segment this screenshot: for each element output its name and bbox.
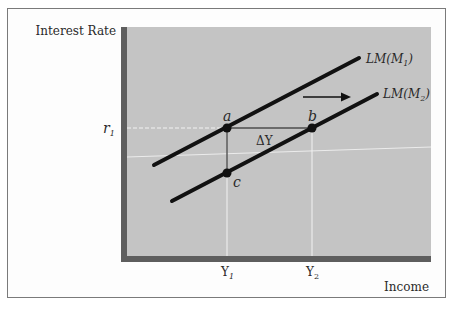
lm-m2-label-close: ) <box>424 87 430 101</box>
x-tick-y2: Y2 <box>305 265 319 281</box>
point-b-label: b <box>308 108 317 124</box>
lm-m1-label-main: LM(M <box>365 52 404 66</box>
y-tick-r1: r1 <box>103 120 115 138</box>
lm-shift-diagram: a b c ΔY LM(M1) LM(M2) Interest Rate Inc… <box>0 0 455 314</box>
y-tick-r1-sub: 1 <box>110 129 115 138</box>
lm-m2-label-main: LM(M <box>382 87 421 101</box>
x-axis-bar <box>121 256 431 262</box>
x-tick-y1: Y1 <box>220 265 234 281</box>
point-b <box>308 124 317 133</box>
x-axis-title: Income <box>384 280 429 294</box>
lm-m1-label-close: ) <box>407 52 413 66</box>
delta-y-label: ΔY <box>256 134 274 148</box>
y-axis-bar <box>121 27 127 262</box>
y-axis-title: Interest Rate <box>36 24 116 38</box>
point-c-label: c <box>233 174 241 190</box>
point-a-label: a <box>223 108 231 124</box>
x-tick-y2-sub: 2 <box>314 272 319 281</box>
x-tick-y1-sub: 1 <box>229 272 234 281</box>
point-c <box>223 169 232 178</box>
point-a <box>223 124 232 133</box>
